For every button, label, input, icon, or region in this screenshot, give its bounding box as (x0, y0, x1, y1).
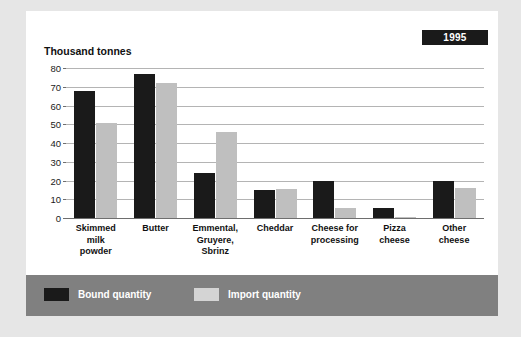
x-category-line: Other (424, 223, 484, 235)
y-tick-label-50: 50 (50, 119, 61, 130)
y-axis-title: Thousand tonnes (44, 45, 132, 57)
x-category-line: Sbrinz (185, 246, 245, 258)
chart-legend: Bound quantity Import quantity (26, 275, 498, 316)
x-category-label-6: Othercheese (424, 223, 484, 246)
bar-import-4 (335, 208, 356, 218)
legend-item-import: Import quantity (194, 288, 301, 301)
year-badge: 1995 (422, 30, 488, 45)
y-tick-mark-0 (63, 218, 66, 219)
legend-label-bound: Bound quantity (78, 289, 151, 300)
gridline-60 (66, 106, 484, 107)
bar-bound-2 (194, 173, 215, 218)
bar-bound-1 (134, 74, 155, 218)
gridline-80 (66, 68, 484, 69)
bar-import-6 (455, 188, 476, 218)
x-category-line: Emmental, (185, 223, 245, 235)
chart-figure: 1995 Thousand tonnes 01020304050607080 S… (0, 0, 521, 337)
bar-import-5 (395, 217, 416, 218)
y-tick-mark-20 (63, 181, 66, 182)
x-category-line: processing (305, 235, 365, 247)
y-tick-label-80: 80 (50, 63, 61, 74)
gridline-30 (66, 162, 484, 163)
bar-bound-6 (433, 181, 454, 219)
y-tick-label-40: 40 (50, 138, 61, 149)
bar-bound-0 (74, 91, 95, 219)
x-category-label-3: Cheddar (245, 223, 305, 235)
x-category-line: cheese (365, 235, 425, 247)
gridline-0 (66, 218, 484, 219)
x-category-label-2: Emmental,Gruyere,Sbrinz (185, 223, 245, 258)
y-tick-mark-80 (63, 68, 66, 69)
y-tick-label-20: 20 (50, 175, 61, 186)
y-tick-label-60: 60 (50, 100, 61, 111)
chart-panel: 1995 Thousand tonnes 01020304050607080 S… (26, 11, 498, 275)
x-category-label-4: Cheese forprocessing (305, 223, 365, 246)
gridline-50 (66, 124, 484, 125)
legend-swatch-import-icon (194, 288, 219, 301)
y-tick-label-0: 0 (56, 213, 61, 224)
bar-bound-3 (254, 190, 275, 218)
x-category-line: Cheese for (305, 223, 365, 235)
x-category-line: milk (66, 235, 126, 247)
bar-import-0 (96, 123, 117, 218)
x-category-line: Butter (126, 223, 186, 235)
x-category-line: Gruyere, (185, 235, 245, 247)
x-category-line: Pizza (365, 223, 425, 235)
bar-import-3 (276, 189, 297, 218)
y-tick-mark-70 (63, 87, 66, 88)
legend-item-bound: Bound quantity (44, 288, 151, 301)
x-category-line: powder (66, 246, 126, 258)
gridline-40 (66, 143, 484, 144)
gridline-70 (66, 87, 484, 88)
x-category-line: Skimmed (66, 223, 126, 235)
y-tick-mark-30 (63, 162, 66, 163)
bar-bound-5 (373, 208, 394, 218)
y-tick-label-30: 30 (50, 156, 61, 167)
legend-label-import: Import quantity (228, 289, 301, 300)
y-tick-mark-40 (63, 143, 66, 144)
bar-bound-4 (313, 181, 334, 219)
legend-swatch-bound-icon (44, 288, 69, 301)
x-category-line: Cheddar (245, 223, 305, 235)
y-tick-mark-50 (63, 124, 66, 125)
y-tick-label-70: 70 (50, 81, 61, 92)
x-category-label-5: Pizzacheese (365, 223, 425, 246)
plot-area: 01020304050607080 (66, 68, 484, 218)
y-tick-mark-60 (63, 106, 66, 107)
bar-import-1 (156, 83, 177, 218)
gridline-20 (66, 181, 484, 182)
x-category-label-1: Butter (126, 223, 186, 235)
x-category-line: cheese (424, 235, 484, 247)
y-tick-mark-10 (63, 199, 66, 200)
y-tick-label-10: 10 (50, 194, 61, 205)
x-category-label-0: Skimmedmilkpowder (66, 223, 126, 258)
bar-import-2 (216, 132, 237, 218)
